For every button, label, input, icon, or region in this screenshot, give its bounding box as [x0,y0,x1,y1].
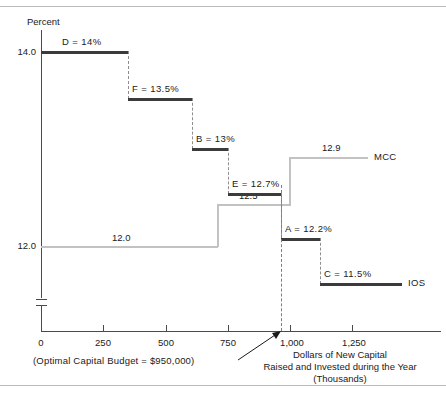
optimal-budget-note: (Optimal Capital Budget = $950,000) [33,355,194,366]
x-axis-title-line-3: (Thousands) [236,373,444,386]
x-axis-title-line-2: Raised and Invested during the Year [236,361,444,374]
x-axis-title-line-1: Dollars of New Capital [236,349,444,362]
chart-figure: Percent 14.0 12.0 0 250 500 750 1,000 1,… [0,0,446,396]
optimal-budget-leader-arrow [0,0,446,396]
